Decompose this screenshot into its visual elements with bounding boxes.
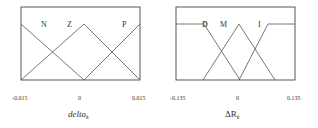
label-N: N: [41, 20, 47, 29]
xlabel-main: ΔR: [225, 109, 237, 119]
tick-left-zero: 0: [78, 95, 81, 101]
xlabel-deltaR: ΔRk: [225, 109, 240, 120]
tick-right-max: 0.135: [287, 95, 301, 101]
left-chart: N Z P -0.015 0 0.015 deltak: [12, 7, 146, 120]
xlabel-delta: deltak: [68, 109, 89, 120]
right-chart: D M I -0.135 0 0.135 ΔRk: [170, 7, 301, 120]
right-plot-frame: [176, 7, 295, 80]
label-I: I: [258, 20, 261, 29]
xlabel-sub: k: [86, 114, 89, 120]
label-Z: Z: [67, 20, 72, 29]
tick-right-zero: 0: [236, 95, 239, 101]
curve-M: [203, 24, 275, 80]
tick-left-max: 0.015: [132, 95, 146, 101]
tick-right-min: -0.135: [170, 95, 186, 101]
label-P: P: [122, 20, 127, 29]
xlabel-main: delta: [68, 109, 86, 119]
curve-I: [239, 24, 295, 80]
curve-Z: [21, 24, 140, 80]
left-plot-frame: [21, 7, 140, 80]
tick-left-min: -0.015: [12, 95, 28, 101]
label-D: D: [202, 20, 208, 29]
xlabel-sub: k: [237, 114, 240, 120]
membership-function-figure: N Z P -0.015 0 0.015 deltak D M I -0.135…: [0, 0, 318, 128]
label-M: M: [220, 20, 227, 29]
